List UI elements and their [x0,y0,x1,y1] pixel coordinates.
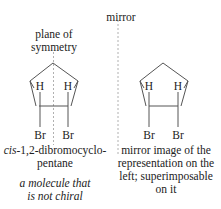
right-caption-line1: mirror image of the [112,144,220,157]
right-caption: mirror image of the representation on th… [112,144,220,196]
right-caption-line2: representation on the [112,157,220,170]
right-molecule [140,63,188,127]
left-h2-atom: H [64,80,72,92]
right-br2-atom: Br [172,129,184,141]
left-br1-atom: Br [34,129,46,141]
right-h1-atom: H [145,80,153,92]
right-br1-atom: Br [143,129,155,141]
plane-label-line1: plane of [18,28,90,41]
left-caption-line1: cis-1,2-dibromocyclo- [2,144,108,157]
left-note-line2: is not chiral [2,190,108,203]
plane-label-line2: symmetry [18,41,90,54]
left-br2-atom: Br [62,129,74,141]
mirror-label: mirror [96,11,146,24]
left-h1-atom: H [36,80,44,92]
plane-of-symmetry-label: plane of symmetry [18,28,90,54]
right-caption-line4: on it [112,183,220,196]
compound-name: -1,2-dibromocyclo- [17,144,107,156]
left-caption: cis-1,2-dibromocyclo- pentane [2,144,108,170]
left-note: a molecule that is not chiral [2,177,108,203]
right-h2-atom: H [174,80,182,92]
cis-prefix: cis [4,144,17,156]
left-caption-line2: pentane [2,157,108,170]
left-note-line1: a molecule that [2,177,108,190]
right-caption-line3: left; superimposable [112,170,220,183]
